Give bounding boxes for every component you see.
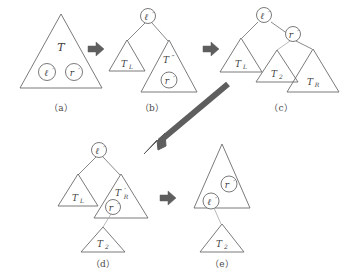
arrow-a-to-b-glyph	[88, 42, 104, 56]
subtree-TL-sub: L	[79, 197, 84, 204]
edge-r-to-TR	[296, 41, 312, 49]
arrow-b-to-c	[203, 42, 219, 56]
node-r-label: r	[225, 180, 230, 190]
node-r-label: r	[109, 203, 114, 213]
node-l-label: ℓ	[95, 146, 99, 156]
bst-rotation-diagram: T ℓ ′ r ′ （a） ℓ ′ T L T ″ r ′ （b）	[0, 0, 344, 276]
arrow-b-to-c-glyph	[203, 42, 219, 56]
subtree-T-label: T	[57, 41, 66, 54]
subtree-TR-sub: R	[314, 81, 320, 88]
subtree-TL-label: T	[235, 59, 242, 69]
arrow-d-to-e	[160, 191, 176, 205]
subtree-T2-sub: 2	[223, 243, 228, 250]
subtree-Tpp-prime: ″	[172, 54, 175, 62]
panel-c-caption: （c）	[269, 103, 292, 113]
subtree-TR-label: T	[307, 77, 314, 87]
panel-d-caption: （d）	[91, 259, 115, 269]
node-r-label: r	[289, 30, 294, 40]
subtree-TL-label: T	[121, 59, 128, 69]
edge-l-to-TL	[127, 23, 145, 41]
node-r-label: r	[165, 76, 170, 86]
subtree-T2-sub: 2	[278, 73, 283, 80]
arrow-c-to-d-shaft	[160, 84, 228, 141]
edge-l-to-T2	[214, 208, 221, 224]
panel-b: ℓ ′ T L T ″ r ′ （b）	[109, 9, 197, 114]
panel-a: T ℓ ′ r ′ （a）	[20, 14, 102, 113]
subtree-Tpp-label: T	[163, 55, 170, 65]
subtree-T2-label: T	[97, 239, 104, 249]
node-l-label: ℓ	[260, 11, 264, 21]
edge-l-to-TL	[78, 157, 96, 175]
subtree-T2-label: T	[271, 69, 278, 79]
subtree-TL-label: T	[72, 193, 79, 203]
panel-e: r ′ ℓ ′ T 2 （e）	[194, 144, 250, 269]
subtree-TRprime-sub: R	[123, 193, 129, 200]
node-l-label: ℓ	[207, 197, 211, 207]
edge-l-to-TRprime	[103, 157, 120, 175]
arrow-d-to-e-glyph	[160, 191, 176, 205]
panel-a-caption: （a）	[49, 103, 72, 113]
edge-l-to-Tpp	[152, 23, 168, 41]
arrow-a-to-b	[88, 42, 104, 56]
panel-d: ℓ ′ T L T ′ R r ′ T 2 （d）	[58, 143, 148, 270]
panel-b-caption: （b）	[140, 103, 164, 113]
edge-r-to-T2	[103, 214, 111, 227]
arrow-c-to-d	[144, 84, 228, 154]
panel-e-caption: （e）	[210, 259, 233, 269]
edge-l-to-TL	[242, 22, 258, 38]
subtree-T2-label: T	[216, 239, 223, 249]
subtree-TL-sub: L	[128, 63, 133, 70]
panel-c: ℓ ′ T L r ′ T 2 T R （c）	[220, 8, 339, 114]
node-l-label: ℓ	[44, 68, 48, 78]
edge-r-to-T2	[277, 41, 290, 50]
node-l-label: ℓ	[144, 12, 148, 22]
node-r-label: r	[70, 68, 75, 78]
subtree-TL-sub: L	[242, 63, 247, 70]
subtree-main-triangle	[194, 144, 250, 208]
subtree-TRprime-label: T	[115, 188, 122, 198]
arrow-c-to-d-head	[144, 133, 166, 154]
subtree-T2-sub: 2	[104, 243, 109, 250]
